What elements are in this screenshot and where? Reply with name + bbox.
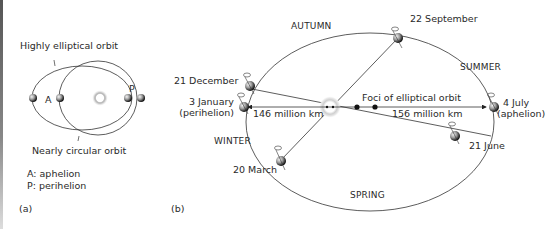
earth-jun21 [449, 122, 461, 144]
date-3-january: 3 January [174, 96, 234, 107]
legend-perihelion: P: perihelion [27, 180, 86, 191]
earth-dec21 [244, 73, 256, 94]
date-21-june: 21 June [469, 140, 505, 151]
season-winter: WINTER [214, 136, 251, 147]
planet-icon [137, 94, 145, 102]
aphelion-distance: 156 million km [392, 108, 463, 119]
season-spring: SPRING [350, 190, 385, 201]
aphelion-marker-a: A [45, 94, 52, 105]
panel-b-caption: (b) [171, 203, 184, 214]
planet-icon [56, 94, 64, 102]
date-20-march: 20 March [233, 164, 277, 175]
foci-label: Foci of elliptical orbit [362, 92, 461, 103]
perihelion-distance: 146 million km [253, 108, 324, 119]
pointer-line [78, 136, 79, 141]
earth-sep22 [392, 27, 404, 48]
legend-aphelion: A: aphelion [27, 168, 80, 179]
date-4-july: 4 July [503, 97, 529, 108]
panel-b-diagram [238, 27, 500, 211]
season-summer: SUMMER [460, 62, 501, 73]
focus-point [354, 104, 359, 109]
date-22-september: 22 September [410, 13, 478, 24]
season-autumn: AUTUMN [291, 21, 332, 32]
perihelion-marker-p: P [129, 83, 135, 94]
date-21-december: 21 December [174, 75, 234, 86]
circular-orbit-label: Nearly circular orbit [32, 145, 126, 156]
aphelion-note: (aphelion) [497, 108, 545, 119]
perihelion-note: (perihelion) [174, 107, 234, 118]
pointer-line [54, 60, 55, 66]
elliptical-orbit-label: Highly elliptical orbit [20, 40, 118, 51]
planet-icon [29, 94, 37, 102]
focus-point [372, 104, 377, 109]
panel-a-caption: (a) [19, 203, 32, 214]
planet-icon [124, 94, 132, 102]
earth-orbit [246, 33, 494, 211]
